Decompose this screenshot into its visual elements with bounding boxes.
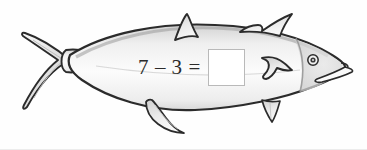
minus-operator-icon: – (155, 57, 166, 78)
tail-fin-icon (22, 33, 70, 109)
fish-head-icon (295, 38, 343, 92)
first-operand: 7 (138, 57, 149, 78)
equals-sign-icon: = (189, 57, 201, 78)
answer-input-box[interactable] (208, 49, 245, 86)
anal-fin-icon (262, 100, 280, 122)
subtraction-equation: 7 – 3 = (138, 47, 245, 87)
second-operand: 3 (172, 57, 183, 78)
eye-icon (308, 55, 318, 65)
worksheet-canvas: 7 – 3 = (0, 0, 367, 150)
